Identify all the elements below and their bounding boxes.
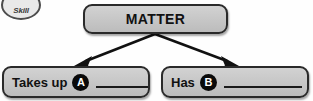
- answer-blank-a[interactable]: [96, 86, 148, 88]
- answer-blank-b[interactable]: [224, 86, 302, 88]
- skill-badge: Skill: [1, 0, 41, 20]
- worksheet-page: Skill MATTER Takes up A Has B: [0, 0, 313, 101]
- arrow-to-has: [155, 34, 239, 68]
- arrow-to-takes-up: [74, 34, 155, 68]
- node-has-label: Has: [171, 75, 195, 90]
- marker-a: A: [72, 74, 89, 91]
- node-has-row: Has B: [171, 74, 307, 91]
- node-takes-up-label: Takes up: [12, 75, 67, 90]
- node-takes-up-row: Takes up A: [12, 74, 148, 91]
- node-has: Has B: [161, 66, 309, 98]
- node-matter: MATTER: [83, 4, 228, 34]
- marker-b: B: [200, 74, 217, 91]
- node-takes-up: Takes up A: [2, 66, 150, 98]
- skill-badge-label: Skill: [13, 7, 28, 15]
- node-matter-title: MATTER: [126, 11, 186, 27]
